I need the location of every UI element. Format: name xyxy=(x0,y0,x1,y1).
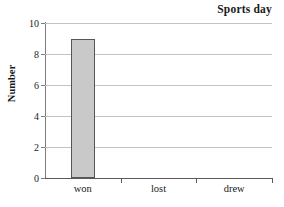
y-tick-mark xyxy=(41,23,45,24)
x-axis-line xyxy=(45,178,272,179)
y-tick-mark xyxy=(41,85,45,86)
bar-chart-figure: Sports day Number 0246810 wonlostdrew xyxy=(0,0,284,207)
x-tick-label-lost: lost xyxy=(151,183,166,194)
chart-title: Sports day xyxy=(217,3,272,15)
y-tick-mark xyxy=(41,178,45,179)
bar xyxy=(71,39,95,179)
x-tick-mark xyxy=(196,178,197,183)
y-tick-label: 2 xyxy=(34,142,39,153)
y-tick-label: 6 xyxy=(34,80,39,91)
y-tick-mark xyxy=(41,116,45,117)
plot-area: 0246810 wonlostdrew xyxy=(45,23,272,178)
gridline xyxy=(45,23,272,24)
y-tick-label: 8 xyxy=(34,49,39,60)
y-tick-label: 10 xyxy=(29,18,39,29)
x-tick-label-drew: drew xyxy=(224,183,245,194)
y-tick-mark xyxy=(41,54,45,55)
y-tick-label: 0 xyxy=(34,173,39,184)
x-tick-mark xyxy=(272,178,273,183)
y-tick-mark xyxy=(41,147,45,148)
x-tick-label-won: won xyxy=(74,183,92,194)
x-tick-mark xyxy=(121,178,122,183)
y-tick-label: 4 xyxy=(34,111,39,122)
y-axis-title: Number xyxy=(6,54,17,114)
